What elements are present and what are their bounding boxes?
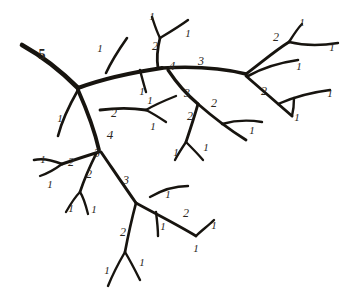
- order-label: 1: [57, 113, 63, 124]
- order-label: 1: [185, 28, 191, 39]
- branch-segment: [146, 110, 166, 122]
- order-label: 1: [91, 204, 97, 215]
- order-label: 1: [203, 142, 209, 153]
- branch-segment: [101, 152, 136, 203]
- order-label: 2: [211, 97, 217, 109]
- order-label: 1: [104, 265, 110, 276]
- order-label: 3: [184, 87, 190, 99]
- branch-segment: [78, 90, 99, 150]
- order-label: 1: [249, 125, 255, 136]
- order-label: 1: [294, 112, 300, 123]
- branch-segment: [34, 159, 62, 164]
- order-label: 2: [273, 31, 279, 43]
- order-label: 1: [327, 88, 333, 99]
- order-label: 1: [160, 221, 166, 232]
- order-label: 2: [111, 107, 117, 119]
- order-label: 1: [296, 61, 302, 72]
- order-label: 3: [123, 174, 129, 186]
- order-label: 1: [68, 203, 74, 214]
- order-label: 1: [97, 43, 103, 54]
- order-label: 1: [147, 95, 153, 106]
- branch-segment: [125, 203, 136, 252]
- order-label: 1: [329, 42, 335, 53]
- order-label: 2: [261, 85, 267, 97]
- branch-segment: [125, 252, 140, 280]
- order-label: 2: [68, 156, 74, 168]
- diagram-canvas: 5111243112112113212111241132112113121112…: [0, 0, 348, 292]
- branch-segment: [168, 70, 198, 104]
- order-label: 3: [94, 147, 100, 159]
- order-label: 1: [211, 220, 217, 231]
- branch-segment: [22, 45, 78, 88]
- order-label: 1: [139, 257, 145, 268]
- branch-group: [22, 17, 338, 286]
- order-label: 2: [86, 168, 92, 180]
- branch-segment: [40, 164, 62, 176]
- branch-segment: [186, 142, 203, 160]
- branch-segment: [222, 121, 262, 124]
- order-label: 1: [40, 154, 46, 165]
- order-label: 1: [165, 189, 171, 200]
- branch-segment: [246, 42, 289, 74]
- order-label: 2: [187, 110, 193, 122]
- order-label: 1: [173, 147, 179, 158]
- order-label: 3: [198, 55, 204, 67]
- order-label: 1: [193, 243, 199, 254]
- branch-segment: [246, 76, 292, 116]
- order-label: 4: [169, 59, 176, 72]
- branch-segment: [108, 252, 125, 286]
- order-label: 1: [47, 179, 53, 190]
- order-label: 1: [150, 121, 156, 132]
- order-label: 2: [120, 226, 126, 238]
- order-label: 5: [39, 48, 46, 62]
- order-label: 1: [149, 11, 155, 22]
- order-label: 4: [107, 128, 114, 141]
- branch-segment: [160, 20, 188, 38]
- order-label: 1: [139, 86, 145, 97]
- branch-segment: [278, 90, 330, 104]
- branch-segment: [100, 109, 146, 111]
- order-label: 2: [183, 207, 189, 219]
- branch-segment: [78, 68, 162, 88]
- branch-segment: [106, 38, 127, 73]
- order-label: 2: [152, 40, 158, 52]
- branch-segment: [80, 192, 88, 214]
- order-label: 1: [299, 17, 305, 28]
